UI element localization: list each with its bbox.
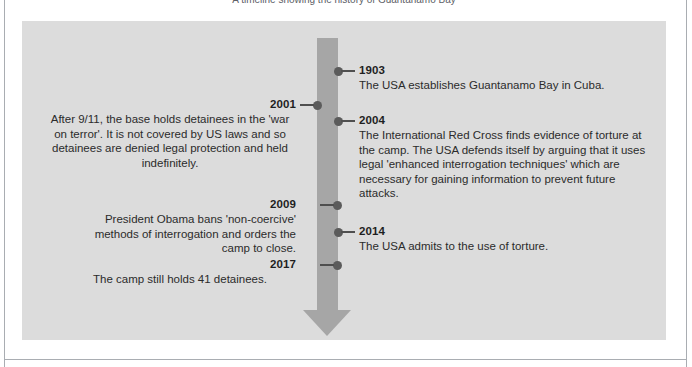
timeline-description: The USA establishes Guantanamo Bay in Cu… [359,78,649,93]
timeline-connector-line [300,104,314,106]
timeline-description: The USA admits to the use of torture. [359,239,649,254]
timeline-entry-2017: 2017 The camp still holds 41 detainees. [64,258,296,287]
timeline-description: The International Red Cross finds eviden… [359,128,655,201]
timeline-entry-2001: 2001 After 9/11, the base holds detainee… [44,98,296,170]
page-border-bottom [4,359,687,360]
timeline-arrow-shaft [317,38,338,315]
timeline-year-label: 2009 [64,198,296,211]
timeline-connector-line [320,204,334,206]
timeline-connector-line [320,264,334,266]
page-caption: A timeline showing the history of Guanta… [22,0,666,6]
page-border-left [4,0,5,367]
timeline-year-label: 2017 [64,258,296,271]
timeline-year-label: 2001 [44,98,296,111]
infographic-page: A timeline showing the history of Guanta… [0,0,692,367]
timeline-arrow-head-icon [303,310,351,336]
timeline-panel: 1903 The USA establishes Guantanamo Bay … [22,21,666,340]
timeline-description: After 9/11, the base holds detainees in … [44,112,296,170]
timeline-year-label: 2004 [359,114,655,127]
timeline-entry-2014: 2014 The USA admits to the use of tortur… [359,225,649,254]
timeline-entry-1903: 1903 The USA establishes Guantanamo Bay … [359,64,649,93]
timeline-year-label: 2014 [359,225,649,238]
timeline-year-label: 1903 [359,64,649,77]
timeline-entry-2004: 2004 The International Red Cross finds e… [359,114,655,201]
page-border-right [686,0,687,367]
timeline-connector-line [341,70,355,72]
timeline-description: President Obama bans 'non-coercive' meth… [64,212,296,256]
timeline-description: The camp still holds 41 detainees. [64,272,296,287]
timeline-connector-line [341,120,355,122]
timeline-connector-line [341,231,355,233]
timeline-entry-2009: 2009 President Obama bans 'non-coercive'… [64,198,296,256]
